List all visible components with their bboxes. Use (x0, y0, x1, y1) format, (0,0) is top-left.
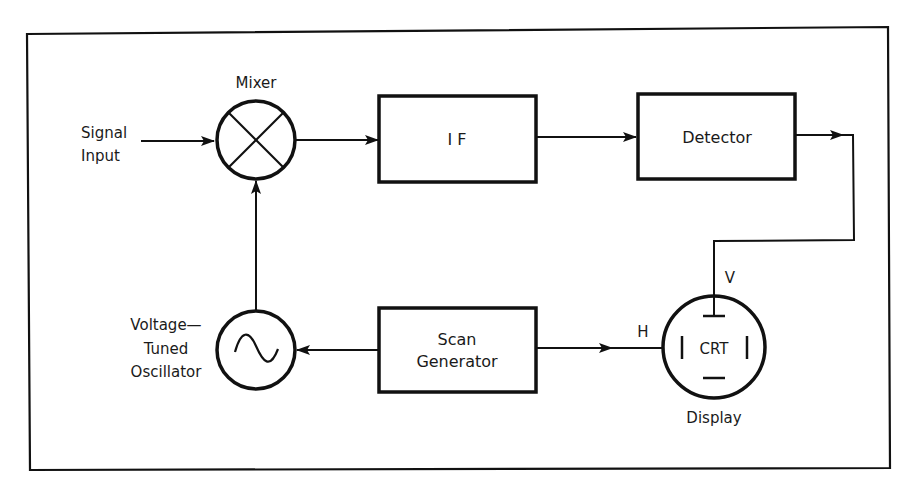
crt-v-label: V (725, 269, 736, 287)
signal-input-label-1: Signal (81, 124, 127, 142)
crt-h-label: H (637, 323, 648, 341)
detector-label: Detector (682, 128, 752, 147)
spectrum-analyzer-block-diagram: Signal Input Mixer I F Detector Voltage—… (0, 0, 924, 485)
scan-generator-label-1: Scan (438, 330, 477, 349)
crt-label: CRT (700, 340, 730, 358)
oscillator-icon (217, 311, 295, 389)
signal-input-label-2: Input (81, 147, 120, 165)
vto-label-3: Oscillator (131, 363, 203, 381)
detector-block: Detector (638, 94, 795, 179)
signal-input: Signal Input (81, 124, 214, 165)
voltage-tuned-oscillator: Voltage— Tuned Oscillator (130, 311, 295, 389)
mixer-label: Mixer (236, 74, 278, 92)
scan-generator-label-2: Generator (416, 352, 498, 371)
crt-caption: Display (686, 409, 741, 427)
vto-label-2: Tuned (143, 340, 189, 358)
if-block: I F (379, 96, 536, 182)
mixer: Mixer (217, 74, 295, 179)
if-label: I F (447, 130, 466, 149)
vto-label-1: Voltage— (130, 316, 201, 334)
scan-generator-block: Scan Generator (379, 308, 536, 392)
